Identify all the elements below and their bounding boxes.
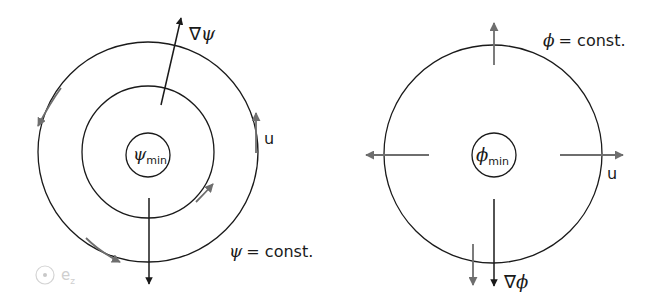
phi-min-label: ϕmin <box>476 144 509 168</box>
stream-function-panel: ψmin ∇ψ u ψ= const. ez <box>36 18 313 286</box>
velocity-label-right: u <box>607 164 617 183</box>
outer-streamline-circle <box>38 42 258 262</box>
psi-min-label: ψmin <box>133 144 167 167</box>
grad-psi-arrow <box>161 18 181 105</box>
velocity-label-left: u <box>264 129 274 148</box>
svg-text:ez: ez <box>61 266 75 286</box>
psi-const-label: ψ= const. <box>229 241 313 261</box>
equipotential-circle <box>384 45 602 263</box>
velocity-arrow-upper-left <box>38 88 61 126</box>
potential-panel: ϕmin ∇ϕ u ϕ= const. <box>366 23 626 292</box>
diagram-canvas: ψmin ∇ψ u ψ= const. ez ϕmin <box>0 0 657 302</box>
ez-axis-symbol: ez <box>36 266 75 286</box>
grad-phi-label: ∇ϕ <box>503 271 528 292</box>
grad-psi-label: ∇ψ <box>188 23 216 44</box>
velocity-arrow-lower-left <box>86 238 120 262</box>
middle-streamline-circle <box>82 86 214 218</box>
phi-const-label: ϕ= const. <box>543 30 626 50</box>
